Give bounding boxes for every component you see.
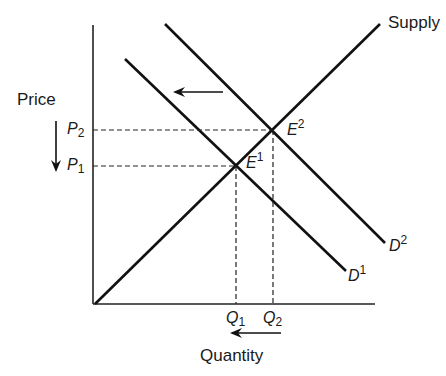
q2-sub: 2 [275, 315, 282, 329]
d2-sup: 2 [401, 233, 408, 247]
x-axis-label: Quantity [200, 347, 263, 364]
e1-letter: E [246, 154, 257, 171]
p2-letter: P [67, 120, 78, 137]
e1-sup: 1 [257, 150, 264, 164]
p2-sub: 2 [78, 126, 85, 140]
q1-label: Q1 [226, 310, 245, 326]
e2-label: E2 [287, 122, 304, 138]
e2-letter: E [287, 121, 298, 138]
d2-label: D2 [389, 238, 407, 254]
q2-letter: Q [263, 309, 275, 326]
y-axis-label: Price [17, 91, 56, 108]
e2-sup: 2 [298, 117, 305, 131]
d1-label: D1 [348, 268, 366, 284]
p1-label: P1 [67, 157, 84, 173]
p2-label: P2 [67, 121, 84, 137]
d1-sup: 1 [360, 263, 367, 277]
q1-sub: 1 [238, 315, 245, 329]
d1-letter: D [348, 267, 360, 284]
q2-label: Q2 [263, 310, 282, 326]
p1-sub: 1 [78, 162, 85, 176]
diagram-canvas [0, 0, 446, 376]
d2-letter: D [389, 237, 401, 254]
demand-curve-d2 [165, 24, 385, 243]
e1-label: E1 [246, 155, 263, 171]
p1-letter: P [67, 156, 78, 173]
q1-letter: Q [226, 309, 238, 326]
supply-label: Supply [388, 14, 440, 31]
